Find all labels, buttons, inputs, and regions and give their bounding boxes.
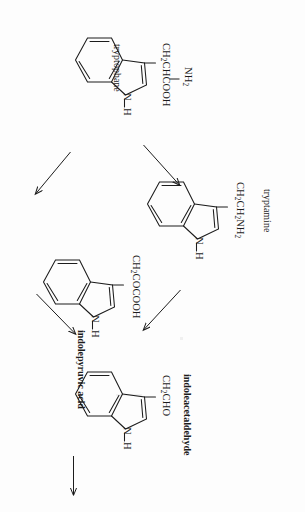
figure-page: N H CH2CHCOOH NH2 tryptophane (0, 0, 305, 512)
sc-seg: CH (130, 255, 141, 270)
tryptophane-ring-nitrogen: N (121, 93, 132, 101)
indoleacetaldehyde-ring-nh: H (121, 442, 132, 450)
arrow-tryptamine-to-indoleacetaldehyde (135, 288, 183, 340)
nh-seg: NH (182, 67, 193, 82)
indolepyruvic-acid-ring-nh: H (89, 330, 100, 338)
tryptamine-side-chain: CH2CH2NH2 (232, 182, 245, 238)
sc-seg: CH (160, 375, 171, 390)
indoleacetaldehyde-ring-nitrogen: N (121, 427, 132, 435)
arrow-indoleacetaldehyde-to-next (66, 455, 80, 503)
arrow-tryptophane-to-indolepyruvic-acid (28, 150, 73, 202)
tryptophane-amino-group: NH2 (180, 67, 193, 86)
structure-tryptophane (51, 16, 155, 108)
sc-seg: CHO (160, 394, 171, 416)
figure-canvas: N H CH2CHCOOH NH2 tryptophane (0, 0, 305, 512)
tryptamine-ring-nh: H (193, 252, 204, 260)
sc-seg: CH (160, 43, 171, 58)
tryptophane-ring-nh: H (121, 108, 132, 116)
label-tryptophane: tryptophane (111, 44, 122, 92)
indoleacetaldehyde-side-chain: CH2CHO (158, 375, 171, 416)
nh-sub: 2 (180, 82, 189, 86)
indolepyruvic-acid-ring-nitrogen: N (89, 315, 100, 323)
sc-seg: CHCOOH (160, 62, 171, 107)
sc-seg: CH (234, 201, 245, 216)
sc-seg: CH (234, 182, 245, 197)
label-tryptamine: tryptamine (261, 189, 272, 232)
tryptamine-ring-nitrogen: N (193, 237, 204, 245)
sc-seg: NH (234, 219, 245, 234)
structure-indoleacetaldehyde (51, 350, 155, 442)
arrow-indolepyruvic-acid-to-indoleacetaldehyde (32, 292, 80, 344)
tryptophane-amino-bond (169, 75, 179, 83)
label-indoleacetaldehyde: indoleacetaldehyde (181, 374, 192, 455)
arrow-tryptophane-to-tryptamine (140, 143, 185, 191)
sc-sub: 2 (232, 235, 241, 239)
